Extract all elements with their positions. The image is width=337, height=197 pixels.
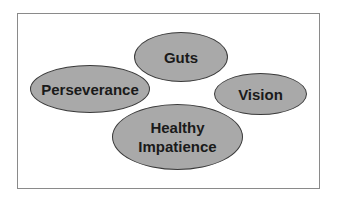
ellipse-vision: Vision (214, 73, 307, 115)
ellipse-healthy-impatience: Healthy Impatience (112, 104, 243, 170)
ellipse-perseverance: Perseverance (30, 65, 150, 113)
label-impatience: Impatience (138, 137, 216, 156)
label-guts: Guts (164, 48, 198, 67)
label-perseverance: Perseverance (41, 80, 139, 99)
label-vision: Vision (238, 85, 283, 104)
ellipse-guts: Guts (134, 32, 228, 82)
label-healthy: Healthy (150, 118, 204, 137)
